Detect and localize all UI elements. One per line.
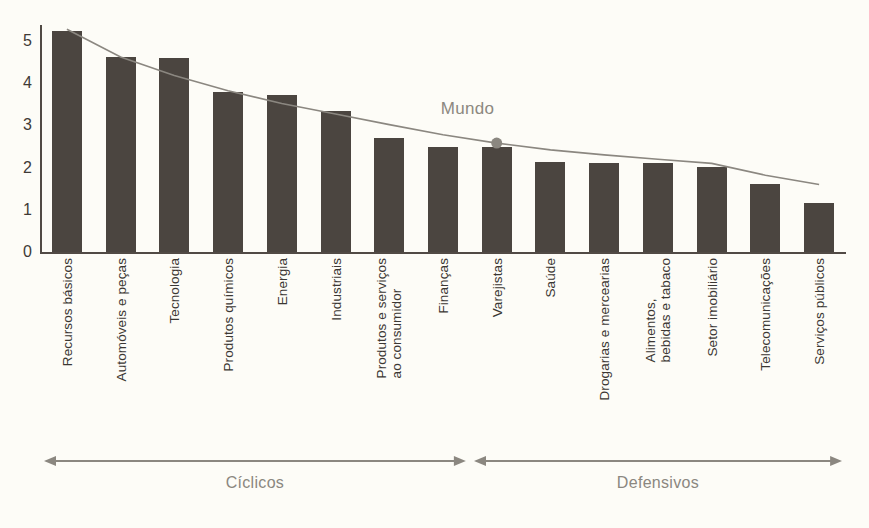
group-arrow: Defensivos (474, 452, 842, 512)
y-tick-label: 1 (6, 201, 32, 219)
category-label-text: Drogarias e mercearias (597, 258, 612, 401)
y-tick-label: 3 (6, 116, 32, 134)
category-label: Telecomunicações (750, 258, 780, 438)
double-headed-arrow-icon (474, 452, 842, 472)
bar-series (40, 25, 846, 252)
category-label: Recursos básicos (52, 258, 82, 438)
category-label: Alimentos,bebidas e tabaco (643, 258, 673, 438)
category-label: Setor imobiliário (697, 258, 727, 438)
category-label-text: Setor imobiliário (704, 258, 719, 357)
category-label: Saúde (535, 258, 565, 438)
category-label-text: Recursos básicos (59, 258, 74, 366)
category-label-text: Energia (274, 258, 289, 305)
y-tick-label: 2 (6, 159, 32, 177)
bar (52, 31, 82, 252)
bar (159, 58, 189, 252)
category-label: Produtos e serviçosao consumidor (374, 258, 404, 438)
category-label-text: Industriais (328, 258, 343, 321)
group-arrow-label: Defensivos (474, 474, 842, 492)
bar (535, 162, 565, 252)
chart-root: 012345 Mundo Recursos básicosAutomóveis … (0, 0, 869, 528)
bar (482, 147, 512, 252)
category-label-text: Telecomunicações (758, 258, 773, 371)
category-label-text: Produtos químicos (221, 258, 236, 372)
x-axis-line (40, 252, 846, 254)
group-arrows: CíclicosDefensivos (0, 452, 869, 522)
bar (804, 203, 834, 252)
bar (428, 147, 458, 253)
category-label: Energia (267, 258, 297, 438)
y-axis-tick-labels: 012345 (0, 0, 32, 253)
category-label: Tecnologia (159, 258, 189, 438)
category-label: Drogarias e mercearias (589, 258, 619, 438)
category-label-text: Saúde (543, 258, 558, 298)
category-label-text: Tecnologia (167, 258, 182, 324)
category-label-text: Automóveis e peças (113, 258, 128, 381)
bar (106, 57, 136, 252)
category-label-text: Produtos e serviçosao consumidor (374, 258, 404, 378)
group-arrow: Cíclicos (44, 452, 466, 512)
bar (321, 111, 351, 252)
y-tick-label: 0 (6, 243, 32, 261)
category-label-text: Serviços públicos (812, 258, 827, 365)
y-tick-label: 5 (6, 32, 32, 50)
category-label-text: Varejistas (489, 258, 504, 317)
category-label: Varejistas (482, 258, 512, 438)
bar (589, 163, 619, 252)
category-label-text: Alimentos,bebidas e tabaco (643, 258, 673, 362)
y-tick-label: 4 (6, 74, 32, 92)
bar (697, 167, 727, 252)
category-label: Automóveis e peças (106, 258, 136, 438)
bar (213, 92, 243, 252)
bar (750, 184, 780, 252)
double-headed-arrow-icon (44, 452, 466, 472)
bar (267, 95, 297, 252)
category-label: Industriais (321, 258, 351, 438)
mundo-annotation-label: Mundo (441, 99, 494, 119)
category-label: Finanças (428, 258, 458, 438)
category-label: Produtos químicos (213, 258, 243, 438)
bar (643, 163, 673, 252)
category-label-text: Finanças (436, 258, 451, 314)
x-axis-category-labels: Recursos básicosAutomóveis e peçasTecnol… (40, 258, 846, 443)
group-arrow-label: Cíclicos (44, 474, 466, 492)
category-label: Serviços públicos (804, 258, 834, 438)
bar (374, 138, 404, 252)
